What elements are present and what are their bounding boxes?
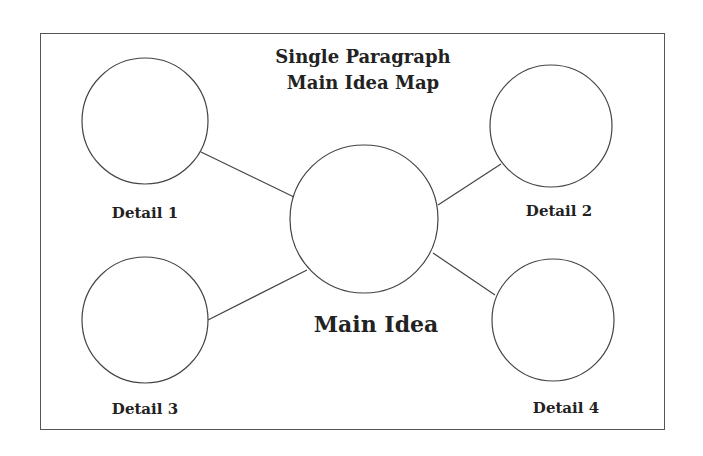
main-idea-circle [290, 145, 438, 293]
detail-2-label: Detail 2 [526, 202, 592, 220]
main-idea-label: Main Idea [314, 311, 439, 337]
detail-3-circle [82, 257, 208, 383]
map-title-line-2: Main Idea Map [275, 70, 450, 96]
connector-detail-1 [201, 152, 294, 197]
detail-3-label: Detail 3 [112, 400, 178, 418]
detail-1-label: Detail 1 [112, 204, 178, 222]
map-title: Single Paragraph Main Idea Map [275, 44, 450, 96]
map-title-line-1: Single Paragraph [275, 44, 450, 70]
detail-1-circle [82, 58, 208, 184]
detail-4-label: Detail 4 [533, 399, 599, 417]
connector-detail-2 [438, 164, 501, 205]
connector-detail-3 [208, 270, 307, 320]
connector-detail-4 [433, 253, 495, 295]
detail-4-circle [492, 259, 614, 381]
detail-2-circle [490, 65, 612, 187]
